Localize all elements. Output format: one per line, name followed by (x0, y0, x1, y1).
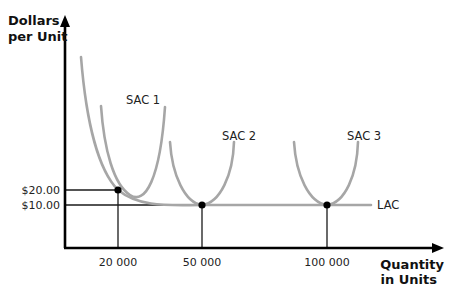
y-tick-20: $20.00 (22, 184, 61, 197)
x-axis-title-line2: in Units (381, 272, 438, 286)
point-50k (198, 201, 205, 208)
lac-label: LAC (377, 198, 399, 212)
sac2-curve (170, 142, 234, 205)
point-20k (114, 186, 121, 193)
x-tick-100k: 100 000 (304, 256, 350, 269)
x-tick-50k: 50 000 (183, 256, 222, 269)
y-axis-title-line1: Dollars (8, 13, 60, 28)
y-tick-10: $10.00 (22, 199, 61, 212)
sac1-curve (101, 106, 165, 197)
sac3-curve (294, 142, 358, 205)
sac1-label: SAC 1 (126, 93, 160, 107)
x-axis-arrow-icon (432, 243, 444, 253)
sac3-label: SAC 3 (347, 129, 381, 143)
y-axis-arrow-icon (60, 15, 70, 27)
y-axis-title-line2: per Unit (8, 29, 68, 44)
x-tick-20k: 20 000 (99, 256, 138, 269)
point-100k (323, 201, 330, 208)
x-axis-title-line1: Quantity (380, 257, 444, 272)
cost-curves-chart: Dollars per Unit Quantity in Units $20.0… (0, 0, 456, 286)
sac2-label: SAC 2 (222, 129, 256, 143)
